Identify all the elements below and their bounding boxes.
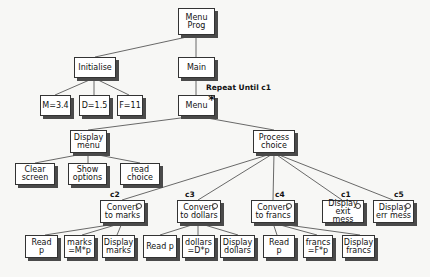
node-convert-marks: Convert to marks bbox=[100, 200, 145, 223]
node-menu: Menu * bbox=[178, 95, 215, 116]
selection-marker-icon bbox=[136, 203, 142, 209]
node-menu-prog: Menu Prog bbox=[178, 8, 215, 35]
node-dollars-read-p: Read p bbox=[143, 235, 177, 258]
node-display-dollars: Display dollars bbox=[220, 235, 255, 258]
node-display-marks: Display marks bbox=[102, 235, 135, 258]
node-initialise: Initialise bbox=[74, 57, 116, 78]
repeat-annotation: Repeat Until c1 bbox=[206, 83, 271, 92]
condition-label-c5: c5 bbox=[394, 190, 404, 199]
node-main: Main bbox=[178, 57, 215, 78]
condition-label-c3: c3 bbox=[185, 190, 195, 199]
node-clear-screen: Clear screen bbox=[15, 163, 55, 185]
node-francs-calc: francs =F*p bbox=[303, 235, 333, 258]
node-display-err-mess: Display err mess bbox=[373, 200, 414, 223]
node-m-const: M=3.4 bbox=[40, 95, 71, 116]
node-read-choice: read choice bbox=[120, 163, 160, 185]
node-show-options: Show options bbox=[68, 163, 107, 185]
node-convert-dollars: Convert to dollars bbox=[177, 200, 221, 223]
node-d-const: D=1.5 bbox=[79, 95, 110, 116]
iteration-marker: * bbox=[208, 93, 215, 106]
selection-marker-icon bbox=[212, 203, 218, 209]
condition-label-c4: c4 bbox=[275, 190, 285, 199]
node-f-const: F=11 bbox=[117, 95, 143, 116]
node-display-exit-mess: Display exit mess bbox=[322, 200, 364, 223]
selection-marker-icon bbox=[286, 203, 292, 209]
node-display-menu: Display menu bbox=[70, 130, 107, 153]
selection-marker-icon bbox=[355, 203, 361, 209]
structure-chart: Menu Prog Initialise Main M=3.4 D=1.5 F=… bbox=[0, 0, 430, 277]
node-marks-read-p: Read p bbox=[25, 235, 58, 258]
node-dollars-calc: dollars =D*p bbox=[182, 235, 215, 258]
condition-label-c2: c2 bbox=[110, 190, 120, 199]
condition-label-c1: c1 bbox=[341, 190, 351, 199]
node-display-francs: Display francs bbox=[342, 235, 375, 258]
node-process-choice: Process choice bbox=[253, 130, 295, 153]
node-francs-read-p: Read p bbox=[263, 235, 295, 258]
node-marks-calc: marks =M*p bbox=[64, 235, 95, 258]
node-convert-francs: Convert to francs bbox=[251, 200, 295, 223]
selection-marker-icon bbox=[405, 203, 411, 209]
